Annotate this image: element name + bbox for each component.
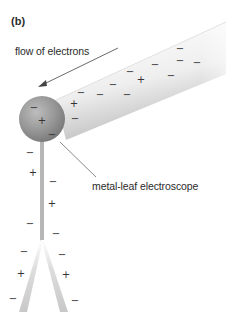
positive-charge-icon: +: [38, 116, 46, 126]
negative-charge-icon: −: [126, 67, 134, 77]
negative-charge-icon: −: [49, 177, 57, 187]
positive-charge-icon: +: [17, 269, 25, 279]
positive-charge-icon: +: [29, 168, 37, 178]
positive-charge-icon: +: [137, 75, 145, 85]
negative-charge-icon: −: [71, 296, 79, 306]
negative-charge-icon: −: [77, 88, 85, 98]
negative-charge-icon: −: [26, 219, 34, 229]
negative-charge-icon: −: [9, 294, 17, 304]
electroscope-diagram: (b) flow of electrons metal-leaf electro…: [0, 0, 226, 323]
negative-charge-icon: −: [20, 247, 28, 257]
negative-charge-icon: −: [71, 114, 79, 124]
negative-charge-icon: −: [48, 130, 56, 140]
negative-charge-icon: −: [30, 103, 38, 113]
negative-charge-icon: −: [167, 71, 175, 81]
negative-charge-icon: −: [151, 60, 159, 70]
panel-label: (b): [11, 15, 25, 27]
negative-charge-icon: −: [176, 56, 184, 66]
negative-charge-icon: −: [52, 229, 60, 239]
negative-charge-icon: −: [26, 148, 34, 158]
flow-of-electrons-label: flow of electrons: [15, 45, 89, 57]
negative-charge-icon: −: [58, 250, 66, 260]
electroscope-stem: [41, 136, 44, 243]
negative-charge-icon: −: [176, 44, 184, 54]
electroscope-label: metal-leaf electroscope: [92, 180, 198, 192]
negative-charge-icon: −: [193, 58, 201, 68]
negative-charge-icon: −: [123, 90, 131, 100]
negative-charge-icon: −: [109, 80, 117, 90]
positive-charge-icon: +: [48, 199, 56, 209]
positive-charge-icon: +: [70, 99, 78, 109]
negative-charge-icon: −: [96, 90, 104, 100]
label-leader-line: [60, 142, 96, 177]
positive-charge-icon: +: [62, 270, 70, 280]
